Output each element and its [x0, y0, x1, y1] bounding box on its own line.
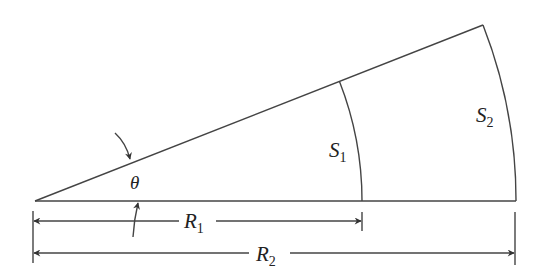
- theta-label: θ: [130, 172, 139, 193]
- sector-diagram: θ S1 S2 R1 R2: [0, 0, 549, 278]
- angle-arrow-upper: [115, 133, 130, 159]
- r2-label: R2: [255, 242, 276, 269]
- upper-ray: [35, 25, 483, 201]
- s2-label: S2: [476, 103, 494, 130]
- r1-label: R1: [183, 209, 204, 236]
- angle-arrow-lower: [133, 203, 138, 237]
- arc-s1: [340, 82, 363, 202]
- s1-label: S1: [329, 138, 347, 165]
- arc-s2: [483, 25, 516, 201]
